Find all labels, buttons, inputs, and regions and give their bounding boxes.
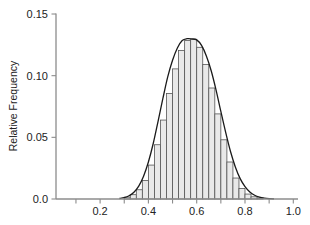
histogram-chart: 0.20.40.60.81.0 0.00.050.100.15 Relative… xyxy=(0,0,310,225)
x-axis-tick-labels: 0.20.40.60.81.0 xyxy=(92,205,300,217)
histogram-bar xyxy=(179,50,185,199)
y-axis-tick-label: 0.05 xyxy=(27,131,48,143)
histogram-bars xyxy=(124,39,263,199)
histogram-bar xyxy=(245,194,251,199)
histogram-bar xyxy=(154,145,160,199)
plot-area: 0.20.40.60.81.0 0.00.050.100.15 Relative… xyxy=(0,0,310,225)
y-axis-tick-label: 0.10 xyxy=(27,70,48,82)
histogram-bar xyxy=(173,69,179,199)
x-axis-ticks xyxy=(76,199,293,204)
histogram-bar xyxy=(167,94,173,199)
x-axis-tick-label: 1.0 xyxy=(286,205,301,217)
histogram-bar xyxy=(215,114,221,199)
y-axis-tick-labels: 0.00.050.100.15 xyxy=(27,8,48,205)
x-axis-tick-label: 0.6 xyxy=(189,205,204,217)
x-axis-tick-label: 0.2 xyxy=(92,205,107,217)
histogram-bar xyxy=(197,47,203,199)
histogram-bar xyxy=(221,140,227,199)
y-axis-tick-label: 0.0 xyxy=(33,193,48,205)
histogram-bar xyxy=(142,181,148,200)
x-axis-tick-label: 0.8 xyxy=(237,205,252,217)
x-axis-tick-label: 0.4 xyxy=(141,205,156,217)
histogram-bar xyxy=(203,65,209,199)
histogram-bar xyxy=(191,39,197,199)
histogram-bar xyxy=(148,165,154,199)
histogram-bar xyxy=(239,189,245,199)
histogram-bar xyxy=(209,88,215,199)
histogram-bar xyxy=(185,41,191,199)
y-axis-tick-label: 0.15 xyxy=(27,8,48,20)
histogram-bar xyxy=(227,162,233,199)
histogram-bar xyxy=(136,190,142,199)
y-axis-ticks xyxy=(52,14,57,199)
y-axis-title: Relative Frequency xyxy=(7,60,19,151)
histogram-bar xyxy=(160,120,166,199)
histogram-bar xyxy=(233,178,239,199)
